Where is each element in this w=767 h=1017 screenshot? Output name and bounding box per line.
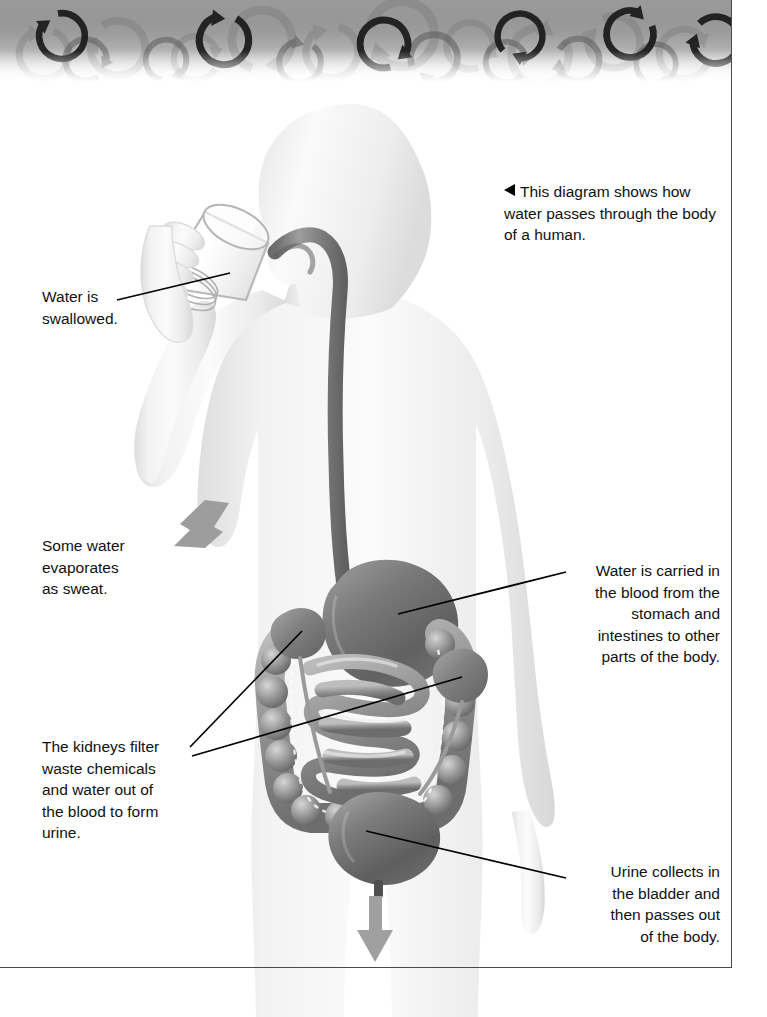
page-root: This diagram shows how water passes thro… — [0, 0, 767, 1017]
label-some-water-evaporates: Some water evaporates as sweat. — [42, 535, 192, 600]
left-triangle-icon — [504, 184, 515, 196]
page-border-horizontal — [0, 967, 732, 968]
diagram-caption-text: This diagram shows how water passes thro… — [504, 183, 716, 243]
label-water-swallowed: Water is swallowed. — [42, 286, 192, 329]
label-urine-collects: Urine collects in the bladder and then p… — [570, 861, 720, 947]
label-water-carried-in-blood: Water is carried in the blood from the s… — [570, 560, 720, 668]
cycle-arrow-motif-group — [0, 0, 731, 82]
diagram-caption: This diagram shows how water passes thro… — [504, 181, 719, 246]
decorative-cycle-band — [0, 0, 731, 82]
page-border-vertical — [731, 0, 732, 968]
label-kidneys-filter: The kidneys filter waste chemicals and w… — [42, 736, 222, 844]
